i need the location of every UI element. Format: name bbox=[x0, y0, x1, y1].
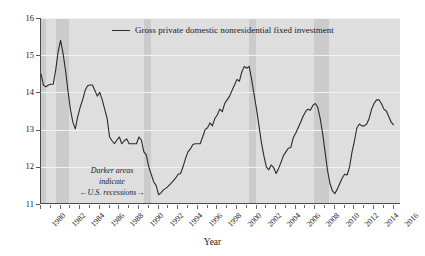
x-tick-mark bbox=[265, 205, 266, 208]
x-axis-title: Year bbox=[0, 237, 425, 247]
x-tick-mark bbox=[50, 205, 51, 208]
x-tick-mark bbox=[246, 205, 247, 208]
x-tick-mark bbox=[128, 205, 129, 208]
x-tick-mark bbox=[334, 205, 335, 209]
x-tick-mark bbox=[158, 205, 159, 209]
x-tick-label: 1994 bbox=[187, 211, 205, 229]
y-tick-label: 11 bbox=[8, 199, 34, 209]
x-tick-mark bbox=[236, 205, 237, 209]
x-tick-mark bbox=[216, 205, 217, 209]
x-tick-label: 1986 bbox=[108, 211, 126, 229]
x-tick-label: 1996 bbox=[206, 211, 224, 229]
x-tick-mark bbox=[89, 205, 90, 208]
x-tick-mark bbox=[295, 205, 296, 209]
annotation-line-2: indicate bbox=[56, 177, 168, 188]
annotation-line-3: ←U.S. recessions→ bbox=[56, 188, 168, 199]
y-tick-label: 12 bbox=[8, 161, 34, 171]
x-tick-mark bbox=[118, 205, 119, 209]
x-tick-mark bbox=[167, 205, 168, 208]
x-tick-mark bbox=[344, 205, 345, 208]
x-tick-label: 2014 bbox=[383, 211, 401, 229]
x-tick-label: 1990 bbox=[148, 211, 166, 229]
x-tick-label: 2008 bbox=[324, 211, 342, 229]
x-tick-mark bbox=[148, 205, 149, 208]
x-tick-mark bbox=[393, 205, 394, 209]
x-tick-mark bbox=[197, 205, 198, 209]
x-tick-mark bbox=[207, 205, 208, 208]
legend-line-swatch bbox=[112, 30, 130, 31]
x-tick-label: 1988 bbox=[128, 211, 146, 229]
x-tick-mark bbox=[69, 205, 70, 208]
annotation-line-1: Darker areas bbox=[56, 166, 168, 177]
legend-label: Gross private domestic nonresidential fi… bbox=[135, 25, 334, 35]
x-tick-label: 2002 bbox=[265, 211, 283, 229]
x-tick-mark bbox=[256, 205, 257, 209]
x-tick-mark bbox=[285, 205, 286, 208]
x-tick-label: 1998 bbox=[226, 211, 244, 229]
y-tick-label: 16 bbox=[8, 13, 34, 23]
x-tick-label: 2000 bbox=[246, 211, 264, 229]
chart-figure: Percent of GDP Year 111213141516 1980198… bbox=[0, 0, 425, 256]
x-tick-label: 1992 bbox=[167, 211, 185, 229]
x-tick-mark bbox=[79, 205, 80, 209]
x-tick-mark bbox=[353, 205, 354, 209]
x-tick-mark bbox=[314, 205, 315, 209]
x-tick-mark bbox=[40, 205, 41, 209]
x-tick-mark bbox=[109, 205, 110, 208]
x-tick-label: 2012 bbox=[363, 211, 381, 229]
y-tick-label: 15 bbox=[8, 50, 34, 60]
x-tick-label: 2010 bbox=[344, 211, 362, 229]
x-tick-mark bbox=[99, 205, 100, 209]
legend: Gross private domestic nonresidential fi… bbox=[112, 25, 334, 35]
x-tick-mark bbox=[138, 205, 139, 209]
x-tick-mark bbox=[373, 205, 374, 209]
x-tick-label: 1980 bbox=[50, 211, 68, 229]
x-tick-mark bbox=[60, 205, 61, 209]
x-tick-label: 2016 bbox=[402, 211, 420, 229]
x-tick-label: 1984 bbox=[89, 211, 107, 229]
y-tick-label: 13 bbox=[8, 124, 34, 134]
x-tick-label: 2006 bbox=[304, 211, 322, 229]
x-tick-mark bbox=[275, 205, 276, 209]
x-tick-label: 2004 bbox=[285, 211, 303, 229]
recession-annotation: Darker areas indicate ←U.S. recessions→ bbox=[56, 166, 168, 198]
x-tick-mark bbox=[177, 205, 178, 209]
x-tick-mark bbox=[363, 205, 364, 208]
x-tick-mark bbox=[324, 205, 325, 208]
y-tick-label: 14 bbox=[8, 87, 34, 97]
x-tick-mark bbox=[226, 205, 227, 208]
x-tick-mark bbox=[187, 205, 188, 208]
x-tick-mark bbox=[304, 205, 305, 208]
x-tick-label: 1982 bbox=[69, 211, 87, 229]
x-tick-mark bbox=[383, 205, 384, 208]
